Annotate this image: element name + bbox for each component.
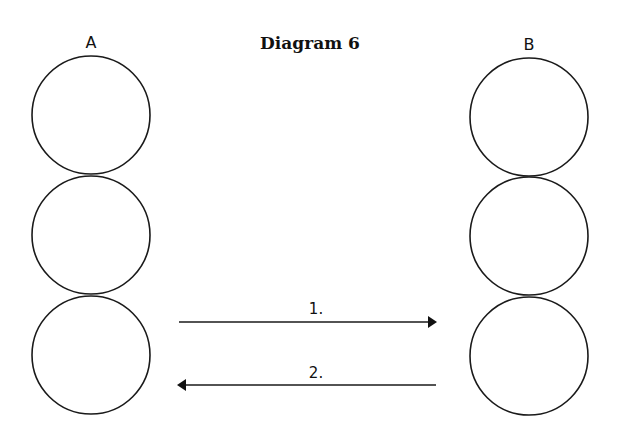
column-b-circle-3 [470, 297, 588, 415]
arrow-2-label: 2. [309, 364, 323, 382]
column-b: B [470, 35, 588, 415]
arrow-left-head-icon [177, 379, 186, 391]
column-b-circle-1 [470, 58, 588, 176]
arrow-1-label: 1. [309, 300, 323, 318]
arrow-1: 1. [179, 300, 437, 328]
column-b-circle-2 [470, 177, 588, 295]
diagram-canvas: Diagram 6 A B 1. 2. [0, 0, 621, 434]
column-a-circle-2 [32, 176, 150, 294]
column-a-circle-1 [32, 56, 150, 174]
arrow-2: 2. [177, 364, 436, 391]
column-a-circle-3 [32, 296, 150, 414]
column-a: A [32, 33, 150, 414]
column-a-label: A [86, 33, 97, 52]
column-b-label: B [524, 35, 535, 54]
diagram-title: Diagram 6 [260, 33, 360, 53]
arrow-right-head-icon [428, 316, 437, 328]
